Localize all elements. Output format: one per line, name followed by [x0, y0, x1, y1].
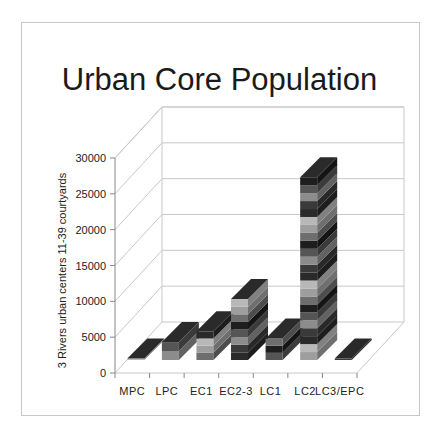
- y-tick-label: 5000: [82, 331, 106, 343]
- y-tick-label: 15000: [75, 260, 106, 272]
- y-tick-label: 0: [100, 367, 106, 379]
- x-category-label: LPC: [155, 385, 178, 397]
- bar-lc1[interactable]: [266, 319, 303, 361]
- y-tick-label: 20000: [75, 224, 106, 236]
- chart-plot: 050001000015000200002500030000MPCLPCEC1E…: [0, 0, 439, 437]
- bar-lc2[interactable]: [300, 157, 337, 360]
- bar-lc3-epc[interactable]: [335, 339, 372, 360]
- bar-ec2-3[interactable]: [231, 279, 268, 360]
- bar-mpc[interactable]: [127, 339, 164, 360]
- x-category-label: LC2: [294, 385, 316, 397]
- bar-lpc[interactable]: [162, 322, 199, 360]
- x-category-label: EC2-3: [219, 385, 253, 397]
- y-tick-label: 30000: [75, 152, 106, 164]
- y-tick-label: 10000: [75, 295, 106, 307]
- x-category-label: MPC: [119, 385, 145, 397]
- x-category-label: LC3/EPC: [315, 385, 364, 397]
- bar-ec1[interactable]: [196, 311, 233, 360]
- y-axis-label: 3 Rivers urban centers 11-39 courtyards: [56, 172, 68, 368]
- bars: [127, 157, 371, 360]
- x-category-label: EC1: [190, 385, 213, 397]
- x-category-label: LC1: [260, 385, 282, 397]
- y-tick-label: 25000: [75, 188, 106, 200]
